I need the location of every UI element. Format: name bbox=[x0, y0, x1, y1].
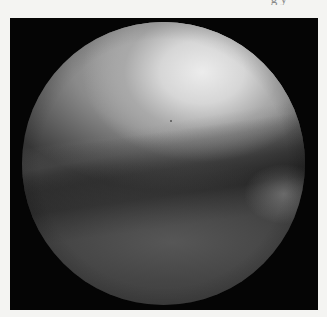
arthroscopic-view bbox=[22, 22, 305, 305]
scope-vignette bbox=[22, 22, 305, 305]
clipped-caption-text: g y bbox=[0, 0, 327, 5]
image-frame bbox=[10, 18, 318, 310]
